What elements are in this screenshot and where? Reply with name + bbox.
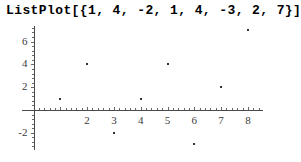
y-tick-minor xyxy=(32,46,34,47)
x-tick-major xyxy=(221,107,222,110)
x-tick-minor xyxy=(151,108,152,110)
x-tick-major xyxy=(168,107,169,110)
x-tick-minor xyxy=(243,108,244,110)
x-tick-minor xyxy=(125,108,126,110)
y-tick-minor xyxy=(32,142,34,143)
y-tick-minor xyxy=(32,115,34,116)
y-tick-label: 2 xyxy=(6,80,28,92)
y-tick-minor xyxy=(32,32,34,33)
x-axis-line xyxy=(22,110,263,111)
y-tick-minor xyxy=(32,37,34,38)
x-tick-minor xyxy=(135,108,136,110)
x-tick-minor xyxy=(200,108,201,110)
x-tick-minor xyxy=(39,108,40,110)
x-tick-minor xyxy=(76,108,77,110)
x-tick-minor xyxy=(205,108,206,110)
data-point xyxy=(86,63,88,65)
x-tick-minor xyxy=(184,108,185,110)
x-tick-label: 7 xyxy=(211,114,231,126)
x-tick-minor xyxy=(92,108,93,110)
y-tick-minor xyxy=(32,55,34,56)
x-tick-minor xyxy=(82,108,83,110)
x-tick-minor xyxy=(178,108,179,110)
y-tick-major xyxy=(31,42,34,43)
x-tick-label: 2 xyxy=(77,114,97,126)
y-tick-major xyxy=(31,133,34,134)
y-tick-minor xyxy=(32,124,34,125)
x-tick-minor xyxy=(162,108,163,110)
x-tick-minor xyxy=(50,108,51,110)
y-tick-minor xyxy=(32,83,34,84)
scatter-plot: 2345678 -2246 xyxy=(0,22,301,162)
y-tick-major xyxy=(31,87,34,88)
x-tick-minor xyxy=(130,108,131,110)
x-tick-minor xyxy=(189,108,190,110)
x-tick-label: 6 xyxy=(184,114,204,126)
y-tick-label: -2 xyxy=(6,126,28,138)
x-tick-minor xyxy=(173,108,174,110)
x-tick-minor xyxy=(216,108,217,110)
y-tick-minor xyxy=(32,74,34,75)
y-tick-minor xyxy=(32,101,34,102)
x-tick-minor xyxy=(253,108,254,110)
y-tick-minor xyxy=(32,28,34,29)
x-tick-major xyxy=(248,107,249,110)
y-tick-minor xyxy=(32,128,34,129)
y-tick-minor xyxy=(32,146,34,147)
y-tick-minor xyxy=(32,78,34,79)
y-tick-major xyxy=(31,64,34,65)
x-tick-minor xyxy=(259,108,260,110)
y-tick-minor xyxy=(32,105,34,106)
x-tick-minor xyxy=(226,108,227,110)
x-tick-minor xyxy=(237,108,238,110)
x-tick-minor xyxy=(146,108,147,110)
data-point xyxy=(113,132,115,134)
y-tick-minor xyxy=(32,51,34,52)
x-tick-minor xyxy=(119,108,120,110)
data-point xyxy=(193,143,195,145)
data-point xyxy=(247,29,249,31)
x-tick-label: 3 xyxy=(104,114,124,126)
x-tick-minor xyxy=(55,108,56,110)
y-tick-minor xyxy=(32,69,34,70)
x-tick-label: 5 xyxy=(158,114,178,126)
data-point xyxy=(167,63,169,65)
x-tick-minor xyxy=(103,108,104,110)
x-tick-minor xyxy=(232,108,233,110)
y-tick-label: 4 xyxy=(6,57,28,69)
data-point xyxy=(220,86,222,88)
listplot-screenshot: ListPlot[{1, 4, -2, 1, 4, -3, 2, 7}] 234… xyxy=(0,0,301,162)
x-tick-minor xyxy=(71,108,72,110)
y-tick-minor xyxy=(32,119,34,120)
x-tick-minor xyxy=(66,108,67,110)
x-tick-major xyxy=(141,107,142,110)
y-tick-label: 6 xyxy=(6,35,28,47)
y-tick-minor xyxy=(32,137,34,138)
x-tick-major xyxy=(194,107,195,110)
data-point xyxy=(140,98,142,100)
y-tick-minor xyxy=(32,92,34,93)
x-tick-minor xyxy=(98,108,99,110)
data-point xyxy=(59,98,61,100)
y-axis-line xyxy=(34,26,35,150)
expression-label: ListPlot[{1, 4, -2, 1, 4, -3, 2, 7}] xyxy=(6,3,301,18)
x-tick-major xyxy=(87,107,88,110)
x-tick-major xyxy=(114,107,115,110)
x-tick-minor xyxy=(109,108,110,110)
x-tick-minor xyxy=(210,108,211,110)
y-tick-minor xyxy=(32,60,34,61)
y-tick-minor xyxy=(32,96,34,97)
x-tick-label: 4 xyxy=(131,114,151,126)
x-tick-minor xyxy=(44,108,45,110)
x-tick-major xyxy=(60,107,61,110)
x-tick-label: 8 xyxy=(238,114,258,126)
x-tick-minor xyxy=(157,108,158,110)
